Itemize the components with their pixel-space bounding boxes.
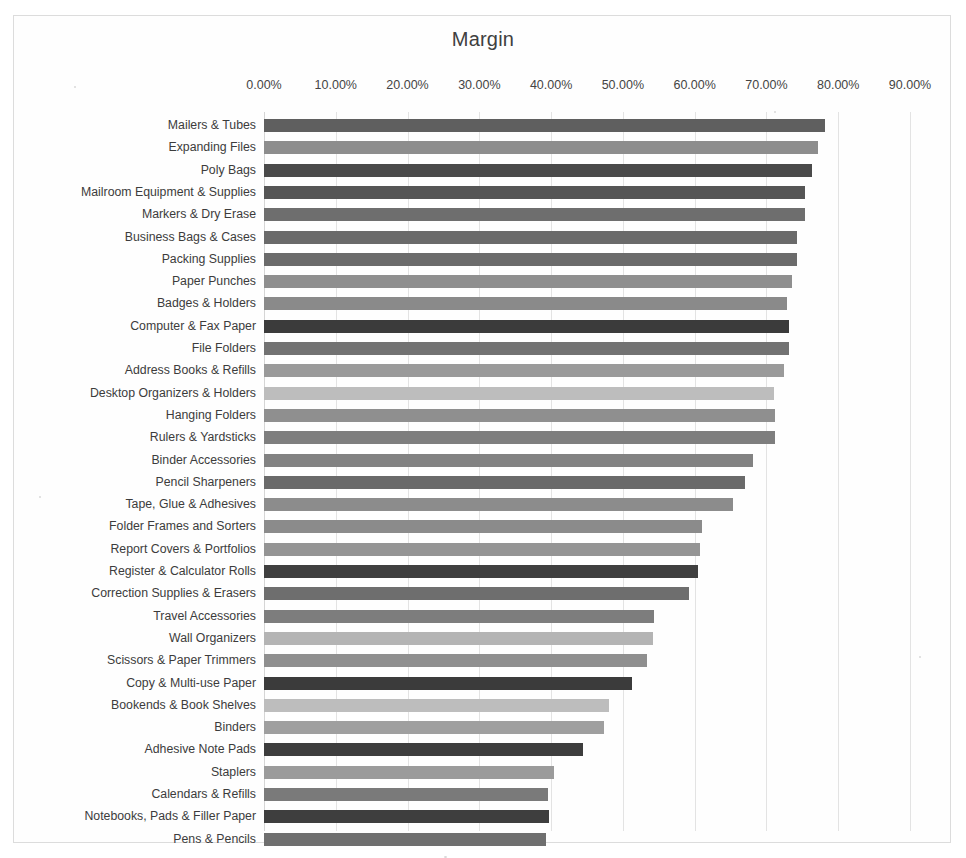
bar xyxy=(264,431,775,444)
bar xyxy=(264,520,702,533)
y-category-label: Correction Supplies & Erasers xyxy=(18,587,256,600)
y-category-label: Mailroom Equipment & Supplies xyxy=(18,186,256,199)
y-category-label: Copy & Multi-use Paper xyxy=(18,677,256,690)
y-category-label: Scissors & Paper Trimmers xyxy=(18,654,256,667)
bar xyxy=(264,320,789,333)
y-category-label: Binders xyxy=(18,721,256,734)
bar xyxy=(264,810,549,823)
y-category-label: Badges & Holders xyxy=(18,297,256,310)
bar xyxy=(264,164,812,177)
y-category-label: Bookends & Book Shelves xyxy=(18,699,256,712)
bar xyxy=(264,766,554,779)
x-axis-tick-labels: 0.00%10.00%20.00%30.00%40.00%50.00%60.00… xyxy=(0,78,966,94)
y-category-label: Markers & Dry Erase xyxy=(18,208,256,221)
x-tick-label: 50.00% xyxy=(583,78,663,92)
plot-area xyxy=(264,112,910,831)
y-category-label: Staplers xyxy=(18,766,256,779)
bar xyxy=(264,587,689,600)
x-tick-label: 10.00% xyxy=(296,78,376,92)
bar xyxy=(264,565,698,578)
bar xyxy=(264,743,583,756)
y-category-label: Expanding Files xyxy=(18,141,256,154)
bar xyxy=(264,788,548,801)
bar xyxy=(264,699,609,712)
bar xyxy=(264,297,787,310)
bar xyxy=(264,387,774,400)
y-category-label: Business Bags & Cases xyxy=(18,231,256,244)
bar xyxy=(264,610,654,623)
bar xyxy=(264,186,805,199)
bar xyxy=(264,141,818,154)
bar xyxy=(264,498,733,511)
y-category-label: Rulers & Yardsticks xyxy=(18,431,256,444)
y-category-label: Packing Supplies xyxy=(18,253,256,266)
y-category-label: Mailers & Tubes xyxy=(18,119,256,132)
bar xyxy=(264,364,784,377)
y-category-label: Computer & Fax Paper xyxy=(18,320,256,333)
bar xyxy=(264,275,792,288)
y-category-label: Poly Bags xyxy=(18,164,256,177)
y-category-label: Adhesive Note Pads xyxy=(18,743,256,756)
y-category-label: Calendars & Refills xyxy=(18,788,256,801)
scan-speckle xyxy=(919,656,921,658)
y-category-label: Notebooks, Pads & Filler Paper xyxy=(18,810,256,823)
y-category-label: Pens & Pencils xyxy=(18,833,256,846)
y-category-label: Folder Frames and Sorters xyxy=(18,520,256,533)
y-category-label: Register & Calculator Rolls xyxy=(18,565,256,578)
bar xyxy=(264,409,775,422)
bar xyxy=(264,654,647,667)
bar xyxy=(264,208,805,221)
bar xyxy=(264,231,797,244)
chart-title: Margin xyxy=(0,28,966,51)
y-category-label: Paper Punches xyxy=(18,275,256,288)
bar xyxy=(264,454,753,467)
bar xyxy=(264,119,825,132)
x-tick-label: 60.00% xyxy=(655,78,735,92)
bar-series xyxy=(264,112,910,831)
x-tick-label: 20.00% xyxy=(368,78,448,92)
bar xyxy=(264,721,604,734)
y-category-label: Binder Accessories xyxy=(18,454,256,467)
y-category-label: Report Covers & Portfolios xyxy=(18,543,256,556)
y-category-label: Address Books & Refills xyxy=(18,364,256,377)
y-category-label: Desktop Organizers & Holders xyxy=(18,387,256,400)
x-tick-label: 40.00% xyxy=(511,78,591,92)
bar xyxy=(264,677,632,690)
bar xyxy=(264,543,700,556)
bar xyxy=(264,342,789,355)
y-category-label: Pencil Sharpeners xyxy=(18,476,256,489)
y-category-label: Hanging Folders xyxy=(18,409,256,422)
y-category-label: Travel Accessories xyxy=(18,610,256,623)
y-category-label: File Folders xyxy=(18,342,256,355)
bar xyxy=(264,833,546,846)
y-category-label: Wall Organizers xyxy=(18,632,256,645)
x-tick-label: 70.00% xyxy=(726,78,806,92)
x-tick-label: 90.00% xyxy=(870,78,950,92)
y-category-label: Tape, Glue & Adhesives xyxy=(18,498,256,511)
bar xyxy=(264,253,797,266)
x-tick-label: 0.00% xyxy=(224,78,304,92)
y-axis-category-labels: Mailers & TubesExpanding FilesPoly BagsM… xyxy=(18,112,256,831)
x-tick-label: 80.00% xyxy=(798,78,878,92)
x-tick-label: 30.00% xyxy=(439,78,519,92)
bar xyxy=(264,632,653,645)
bar xyxy=(264,476,745,489)
gridline xyxy=(910,112,911,831)
